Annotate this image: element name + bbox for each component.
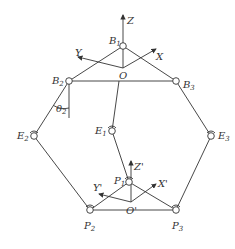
label-b3: B3 bbox=[182, 79, 195, 92]
joint-p2 bbox=[87, 207, 94, 214]
label-b2: B2 bbox=[51, 75, 64, 88]
label-y: Y bbox=[75, 47, 83, 58]
mechanism-diagram: Z X Y O B1 B2 B3 θ2 E2 E1 E3 Z' X' Y' O'… bbox=[0, 0, 235, 249]
y-axis-arrow bbox=[78, 57, 123, 68]
label-e2: E2 bbox=[16, 130, 29, 143]
joint-p3 bbox=[173, 207, 180, 214]
label-x-prime: X' bbox=[157, 178, 168, 189]
label-p3: P3 bbox=[171, 220, 184, 233]
label-x: X bbox=[155, 51, 164, 62]
label-e1: E1 bbox=[94, 125, 107, 138]
x-axis-arrow bbox=[123, 49, 156, 68]
label-z-prime: Z' bbox=[133, 161, 144, 172]
label-o: O bbox=[119, 70, 127, 81]
label-y-prime: Y' bbox=[93, 182, 102, 193]
label-e3: E3 bbox=[217, 130, 230, 143]
joint-p1 bbox=[126, 179, 133, 186]
label-p1: P1 bbox=[113, 175, 125, 188]
label-o-prime: O' bbox=[126, 205, 137, 216]
label-z: Z bbox=[126, 15, 135, 26]
joint-b2 bbox=[66, 78, 73, 85]
joint-e1 bbox=[109, 128, 116, 135]
joint-e2 bbox=[31, 133, 38, 140]
label-theta2: θ2 bbox=[56, 103, 67, 116]
lower-arm-3 bbox=[176, 136, 211, 210]
joint-b3 bbox=[173, 78, 180, 85]
label-p2: P2 bbox=[83, 220, 96, 233]
upper-arm-1 bbox=[112, 81, 119, 131]
y-prime-axis-arrow bbox=[99, 194, 131, 202]
joint-e3 bbox=[208, 133, 215, 140]
legs bbox=[34, 81, 211, 210]
lower-arm-2 bbox=[34, 136, 90, 210]
x-prime-axis-arrow bbox=[131, 184, 156, 202]
label-b1: B1 bbox=[108, 35, 121, 48]
